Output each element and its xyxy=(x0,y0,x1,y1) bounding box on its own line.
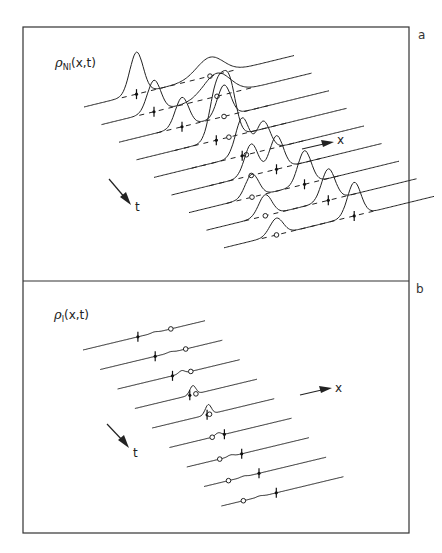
density-curve xyxy=(119,85,329,142)
density-curve xyxy=(221,477,343,506)
figure-drawing xyxy=(0,0,442,553)
circle-marker-icon xyxy=(169,327,174,332)
trace-slice xyxy=(100,340,222,369)
cross-marker-dot xyxy=(188,394,191,397)
panel-label-a: a xyxy=(418,28,425,42)
cross-marker-dot xyxy=(215,139,218,142)
density-curve xyxy=(224,182,434,247)
trace-slice xyxy=(152,399,274,428)
rho-ni-label: ρNI(x,t) xyxy=(55,55,96,72)
panel-a-traces xyxy=(84,52,434,248)
trace-slice xyxy=(83,321,205,350)
t-arrow-icon xyxy=(107,424,129,448)
cross-marker-dot xyxy=(240,452,243,455)
circle-marker-icon xyxy=(241,498,246,503)
density-curve xyxy=(84,52,294,107)
t-arrow-icon xyxy=(109,179,131,205)
trace-slice xyxy=(207,169,417,230)
cross-marker-dot xyxy=(257,472,260,475)
circle-marker-icon xyxy=(183,347,188,352)
cross-marker-dot xyxy=(154,355,157,358)
x-arrow-icon xyxy=(302,140,334,149)
circle-marker-icon xyxy=(250,195,255,200)
circle-marker-icon xyxy=(227,135,232,140)
trace-slice xyxy=(118,360,240,389)
circle-marker-icon xyxy=(274,233,279,238)
trace-slice xyxy=(189,151,399,213)
circle-marker-icon xyxy=(226,478,231,483)
cross-marker-dot xyxy=(171,374,174,377)
cross-marker-dot xyxy=(223,433,226,436)
cross-marker-dot xyxy=(303,183,306,186)
cross-marker-dot xyxy=(327,199,330,202)
density-curve xyxy=(187,438,309,467)
panel-label-b: b xyxy=(416,282,424,296)
panel-b-traces xyxy=(83,321,343,506)
density-curve xyxy=(170,418,292,447)
t-axis-label-b: t xyxy=(133,446,138,460)
trace-slice xyxy=(170,418,292,447)
density-curve xyxy=(189,151,399,213)
trace-slice xyxy=(84,52,294,107)
circle-marker-icon xyxy=(217,457,222,462)
cross-marker-dot xyxy=(136,335,139,338)
density-curve xyxy=(83,321,205,350)
dashed-baseline xyxy=(122,70,235,98)
t-axis-label-a: t xyxy=(135,200,140,214)
density-curve xyxy=(100,340,222,369)
trace-slice xyxy=(187,438,309,467)
circle-marker-icon xyxy=(263,213,268,218)
figure: a b ρNI(x,t) ρI(x,t) x t x t xyxy=(0,0,442,553)
cross-marker-dot xyxy=(180,125,183,128)
circle-marker-icon xyxy=(194,392,199,397)
circle-marker-icon xyxy=(222,114,227,119)
x-axis-label-a: x xyxy=(337,133,344,147)
trace-slice xyxy=(135,379,257,408)
density-curve xyxy=(102,73,312,125)
trace-slice xyxy=(204,457,326,486)
density-curve xyxy=(118,360,240,389)
x-arrow-icon xyxy=(300,386,332,395)
rho-i-label: ρI(x,t) xyxy=(54,307,89,324)
trace-slice xyxy=(102,73,312,125)
x-axis-label-b: x xyxy=(335,381,342,395)
circle-marker-icon xyxy=(189,369,194,374)
cross-marker-dot xyxy=(275,491,278,494)
density-curve xyxy=(204,457,326,486)
cross-marker-dot xyxy=(152,110,155,113)
cross-marker-dot xyxy=(241,154,244,157)
trace-slice xyxy=(224,182,434,247)
cross-marker-dot xyxy=(275,168,278,171)
density-curve xyxy=(152,399,274,428)
trace-slice xyxy=(221,477,343,506)
circle-marker-icon xyxy=(210,435,215,440)
cross-marker-dot xyxy=(353,214,356,217)
cross-marker-dot xyxy=(135,93,138,96)
circle-marker-icon xyxy=(207,412,212,417)
density-curve xyxy=(207,169,417,230)
trace-slice xyxy=(119,85,329,142)
